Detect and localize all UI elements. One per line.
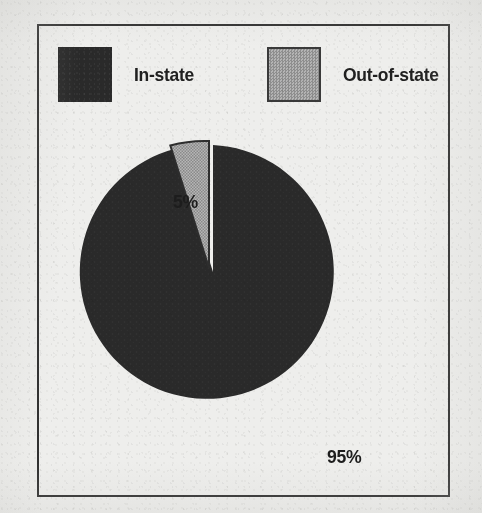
pie-label-in-state: 95% [327, 446, 362, 468]
chart-page: In-state Out-of-state [0, 0, 482, 513]
legend-item-out-of-state[interactable]: Out-of-state [267, 47, 447, 102]
legend-label-in-state: In-state [134, 64, 194, 86]
chart-frame: In-state Out-of-state [37, 24, 450, 497]
legend-item-in-state[interactable]: In-state [58, 47, 199, 102]
pie-chart: 5% 95% [39, 116, 452, 499]
legend: In-state Out-of-state [39, 26, 448, 116]
pie-label-out-of-state: 5% [173, 191, 198, 213]
pie-svg [39, 116, 452, 499]
legend-swatch-out-of-state [267, 47, 321, 102]
legend-swatch-in-state [58, 47, 112, 102]
legend-label-out-of-state: Out-of-state [343, 64, 439, 86]
